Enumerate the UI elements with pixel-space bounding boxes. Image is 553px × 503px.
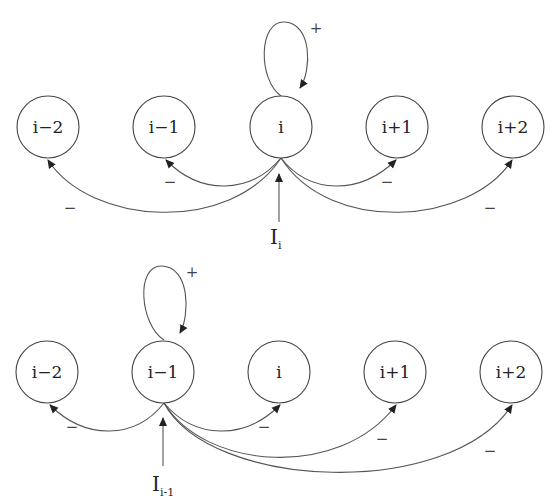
node-i: i <box>248 341 310 403</box>
self-loop-sign: + <box>186 263 199 281</box>
node-i-plus-2: i+2 <box>482 96 544 158</box>
sign-to-i-minus-2: − <box>66 418 79 436</box>
svg-text:i−1: i−1 <box>148 362 179 382</box>
edge-to-i-plus-1 <box>281 158 396 186</box>
svg-text:i+1: i+1 <box>382 117 413 137</box>
node-i-minus-2: i−2 <box>16 341 78 403</box>
sign-to-i-minus-2: − <box>64 199 77 217</box>
node-i: i <box>250 96 312 158</box>
diagram-canvas: + − − − − Ii i−2 i−1 i i+1 i+2 + − − − − <box>0 0 553 503</box>
sign-to-i-plus-1: − <box>381 173 394 191</box>
self-loop-sign: + <box>310 19 323 37</box>
svg-text:i+2: i+2 <box>498 117 529 137</box>
node-i-plus-1: i+1 <box>364 341 426 403</box>
top-network: + − − − − Ii i−2 i−1 i i+1 i+2 <box>17 19 544 252</box>
svg-text:i+1: i+1 <box>380 362 411 382</box>
bottom-network: + − − − − Ii-1 i−2 i−1 i i+1 i+2 <box>16 263 542 499</box>
node-i-plus-2: i+2 <box>480 341 542 403</box>
edge-to-i-plus-1 <box>164 403 396 457</box>
node-i-minus-1: i−1 <box>132 341 194 403</box>
edge-to-i-plus-2 <box>281 158 512 212</box>
sign-to-i-plus-2: − <box>484 199 497 217</box>
svg-text:i+2: i+2 <box>496 362 527 382</box>
self-loop-edge <box>264 22 307 96</box>
edge-to-i-minus-1 <box>166 158 281 186</box>
svg-text:i: i <box>278 117 284 137</box>
input-label: Ii-1 <box>152 472 174 499</box>
edge-to-i-plus-2 <box>164 403 512 472</box>
self-loop-edge <box>144 266 186 340</box>
sign-to-i-plus-1: − <box>376 430 389 448</box>
svg-text:i−1: i−1 <box>149 117 180 137</box>
node-i-minus-2: i−2 <box>17 96 79 158</box>
sign-to-i-minus-1: − <box>164 173 177 191</box>
svg-text:i−2: i−2 <box>33 117 64 137</box>
sign-to-i: − <box>258 418 271 436</box>
node-i-minus-1: i−1 <box>133 96 195 158</box>
input-label: Ii <box>270 225 282 252</box>
svg-text:i: i <box>276 362 282 382</box>
svg-text:i−2: i−2 <box>32 362 63 382</box>
node-i-plus-1: i+1 <box>366 96 428 158</box>
sign-to-i-plus-2: − <box>484 442 497 460</box>
